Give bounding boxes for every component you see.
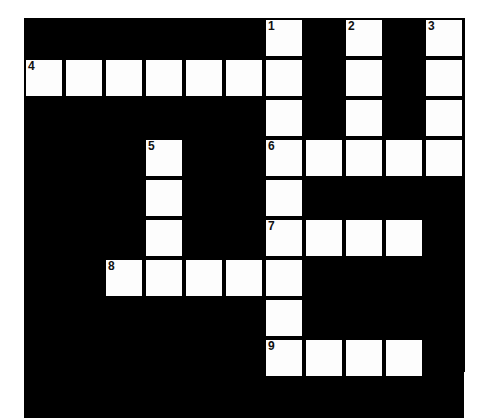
crossword-cell-block	[24, 298, 64, 338]
crossword-cell-open[interactable]	[224, 258, 264, 298]
crossword-cell-block	[184, 338, 224, 378]
crossword-cell-block	[384, 58, 424, 98]
crossword-cell-block	[64, 18, 104, 58]
crossword-cell-block	[224, 138, 264, 178]
crossword-cell-block	[64, 378, 104, 418]
crossword-cell-block	[24, 178, 64, 218]
crossword-cell-open[interactable]	[424, 138, 464, 178]
cell-number: 4	[28, 60, 34, 73]
crossword-cell-block	[224, 378, 264, 418]
crossword-cell-open[interactable]	[424, 98, 464, 138]
crossword-cell-open[interactable]	[104, 58, 144, 98]
crossword-cell-block	[384, 18, 424, 58]
crossword-cell-block	[224, 98, 264, 138]
crossword-cell-block	[104, 18, 144, 58]
crossword-cell-open[interactable]: 9	[264, 338, 304, 378]
crossword-cell-block	[184, 218, 224, 258]
crossword-cell-open[interactable]	[344, 218, 384, 258]
crossword-cell-open[interactable]: 6	[264, 138, 304, 178]
crossword-cell-block	[264, 378, 304, 418]
cell-number: 3	[428, 20, 434, 33]
crossword-grid[interactable]: 123456789	[24, 18, 465, 372]
cell-number: 5	[148, 140, 154, 153]
crossword-cell-block	[384, 258, 424, 298]
crossword-cell-open[interactable]	[144, 258, 184, 298]
crossword-cell-open[interactable]	[184, 58, 224, 98]
crossword-cell-block	[224, 18, 264, 58]
crossword-cell-block	[224, 178, 264, 218]
crossword-cell-block	[104, 178, 144, 218]
crossword-cell-block	[64, 178, 104, 218]
crossword-cell-open[interactable]	[384, 338, 424, 378]
crossword-cell-block	[144, 378, 184, 418]
crossword-cell-block	[184, 298, 224, 338]
crossword-cell-open[interactable]	[384, 218, 424, 258]
crossword-cell-open[interactable]	[264, 258, 304, 298]
crossword-cell-block	[104, 298, 144, 338]
crossword-cell-block	[224, 298, 264, 338]
crossword-cell-open[interactable]	[344, 138, 384, 178]
crossword-cell-block	[64, 298, 104, 338]
crossword-cell-block	[424, 378, 464, 418]
crossword-cell-block	[344, 378, 384, 418]
crossword-cell-open[interactable]: 3	[424, 18, 464, 58]
crossword-cell-open[interactable]	[264, 178, 304, 218]
crossword-cell-block	[64, 258, 104, 298]
crossword-cell-block	[144, 18, 184, 58]
crossword-cell-block	[24, 218, 64, 258]
crossword-cell-block	[64, 98, 104, 138]
crossword-cell-open[interactable]: 7	[264, 218, 304, 258]
crossword-cell-open[interactable]	[344, 98, 384, 138]
crossword-cell-block	[184, 178, 224, 218]
crossword-cell-block	[304, 178, 344, 218]
crossword-cell-block	[24, 18, 64, 58]
crossword-cell-block	[64, 218, 104, 258]
crossword-cell-open[interactable]	[184, 258, 224, 298]
crossword-cell-open[interactable]	[304, 138, 344, 178]
cell-number: 9	[268, 340, 274, 353]
crossword-cell-open[interactable]	[264, 58, 304, 98]
crossword-cell-block	[184, 18, 224, 58]
crossword-cell-block	[64, 338, 104, 378]
crossword-cell-open[interactable]	[304, 338, 344, 378]
crossword-cell-block	[104, 338, 144, 378]
crossword-cell-block	[304, 18, 344, 58]
crossword-cell-block	[424, 338, 464, 378]
crossword-cell-open[interactable]	[144, 178, 184, 218]
crossword-cell-open[interactable]: 5	[144, 138, 184, 178]
crossword-cell-block	[184, 378, 224, 418]
crossword-cell-open[interactable]	[344, 338, 384, 378]
crossword-cell-block	[24, 378, 64, 418]
crossword-cell-open[interactable]	[304, 218, 344, 258]
cell-number: 2	[348, 20, 354, 33]
crossword-cell-block	[344, 258, 384, 298]
crossword-cell-block	[24, 258, 64, 298]
crossword-cell-block	[184, 98, 224, 138]
cell-number: 8	[108, 260, 114, 273]
crossword-cell-open[interactable]	[264, 98, 304, 138]
crossword-cell-open[interactable]	[264, 298, 304, 338]
crossword-cell-block	[224, 338, 264, 378]
cell-number: 6	[268, 140, 274, 153]
crossword-cell-block	[144, 98, 184, 138]
crossword-cell-open[interactable]	[144, 218, 184, 258]
crossword-cell-open[interactable]	[64, 58, 104, 98]
crossword-cell-block	[104, 378, 144, 418]
crossword-cell-block	[424, 218, 464, 258]
crossword-cell-block	[344, 178, 384, 218]
crossword-cell-block	[304, 378, 344, 418]
crossword-cell-open[interactable]	[144, 58, 184, 98]
crossword-cell-block	[304, 298, 344, 338]
crossword-cell-open[interactable]: 8	[104, 258, 144, 298]
crossword-cell-open[interactable]	[384, 138, 424, 178]
crossword-cell-open[interactable]	[344, 58, 384, 98]
crossword-cell-open[interactable]: 2	[344, 18, 384, 58]
crossword-cell-open[interactable]: 1	[264, 18, 304, 58]
crossword-cell-block	[424, 258, 464, 298]
crossword-cell-open[interactable]	[224, 58, 264, 98]
crossword-cell-open[interactable]	[424, 58, 464, 98]
crossword-cell-open[interactable]: 4	[24, 58, 64, 98]
crossword-cell-block	[304, 58, 344, 98]
crossword-cell-block	[24, 338, 64, 378]
